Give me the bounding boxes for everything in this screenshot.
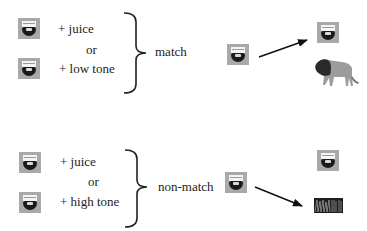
face-icon [18,58,40,79]
match-or-label: or [86,43,97,57]
nonmatch-high-tone-label: + high tone [60,195,119,209]
face-icon [227,44,249,65]
match-brace [124,13,146,93]
noise-spectrogram-image [314,198,343,213]
match-low-tone-label: + low tone [59,62,115,76]
diagram-graphics [0,0,367,231]
face-icon [19,152,41,173]
face-icon [317,150,339,171]
match-juice-label: + juice [58,22,94,36]
nonmatch-label: non-match [158,180,214,194]
match-arrow [259,40,307,57]
nonmatch-arrow [255,187,302,206]
nonmatch-juice-label: + juice [60,155,96,169]
face-icon [225,172,247,193]
face-icon [19,192,41,213]
face-icon [317,22,339,43]
nonmatch-or-label: or [88,175,99,189]
match-label: match [155,45,187,59]
nonmatch-brace [125,150,147,227]
face-icon [18,18,40,39]
lion-image [315,59,359,86]
